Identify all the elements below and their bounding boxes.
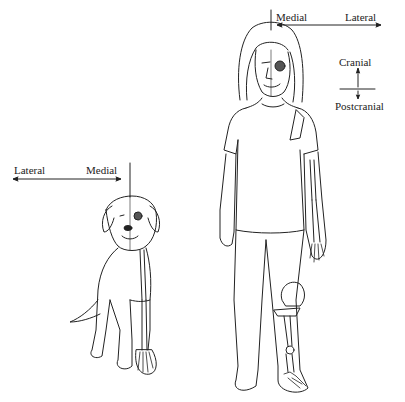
human-figure (220, 22, 326, 392)
postcranial-label: Postcranial (335, 100, 384, 112)
cranial-label: Cranial (339, 56, 371, 68)
human-lateral-label: Lateral (345, 11, 376, 23)
cranial-postcranial-arrow (340, 68, 375, 99)
dog-figure (70, 196, 160, 374)
dog-lateral-label: Lateral (14, 164, 45, 176)
dog-medial-label: Medial (86, 164, 117, 176)
human-medial-label: Medial (276, 11, 307, 23)
